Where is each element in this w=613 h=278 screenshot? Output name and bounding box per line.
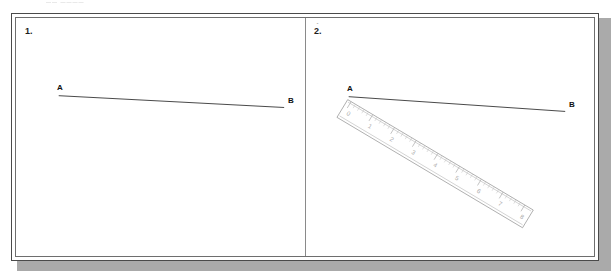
ruler-tick-major — [521, 205, 525, 211]
ruler-tick-minor — [379, 120, 381, 124]
ruler-tick-major — [434, 153, 438, 159]
panel-2-point-b-label: B — [569, 101, 575, 109]
ruler-tick-minor — [353, 104, 355, 108]
ruler-tick-minor — [488, 184, 490, 188]
ruler-tick-major — [369, 115, 373, 121]
ruler-tick-minor — [509, 197, 511, 201]
ruler-tick-minor — [444, 158, 446, 162]
panel-2-number: ´ 2. — [314, 26, 322, 36]
ruler-numeral: 7 — [497, 200, 504, 208]
ruler-tick-minor — [410, 138, 412, 142]
segment-ab-line — [349, 97, 566, 112]
ruler-numeral: 4 — [432, 161, 439, 169]
ruler-tick-minor — [405, 135, 407, 139]
panel-2-figure: 012345678 — [305, 18, 594, 256]
worksheet-sheet: 1. A B ´ 2. A B 012345678 — [11, 13, 599, 261]
panel-2-segment — [349, 97, 566, 112]
ruler-tick-minor — [453, 164, 455, 168]
panel-1: 1. A B — [16, 18, 305, 256]
ruler-numeral: 6 — [476, 187, 483, 195]
ruler-tick-minor — [466, 171, 468, 175]
panel-1-figure — [16, 18, 305, 256]
ruler-tick-major — [499, 192, 503, 198]
ruler-tick-minor — [496, 189, 498, 193]
ruler-tick-minor — [388, 125, 390, 129]
ruler-numeral: 3 — [411, 148, 418, 156]
ruler-numeral: 8 — [519, 213, 526, 221]
ruler-numeral: 5 — [454, 174, 461, 182]
ruler-tick-major — [347, 102, 351, 108]
ruler-tick-minor — [462, 169, 464, 173]
ruler-body — [337, 100, 533, 228]
ruler-tick-minor — [492, 187, 494, 191]
ruler-tick-major — [391, 127, 395, 133]
ruler-tick-major — [412, 140, 416, 146]
ruler-tick-minor — [440, 156, 442, 160]
ruler-tick-minor — [401, 133, 403, 137]
ruler-numeral: 0 — [345, 109, 352, 117]
panel-1-point-a-label: A — [57, 84, 63, 92]
panel-2: ´ 2. A B 012345678 — [305, 18, 594, 256]
segment-ab-line — [59, 96, 284, 108]
ruler-tick-minor — [431, 151, 433, 155]
panel-2-point-a-label: A — [347, 85, 353, 93]
ruler-tick-major — [478, 179, 482, 185]
ruler-tick-minor — [449, 161, 451, 165]
ruler-tick-minor — [375, 117, 377, 121]
scan-header-text: —— ———— — [46, 0, 84, 5]
ruler-tick-minor — [518, 202, 520, 206]
ruler-tick-minor — [357, 107, 359, 111]
ruler-tick-minor — [505, 195, 507, 199]
ruler-tick-major — [456, 166, 460, 172]
ruler-tick-minor — [423, 146, 425, 150]
ruler-tick-minor — [427, 148, 429, 152]
panel-1-number: 1. — [25, 26, 33, 36]
ruler-tick-minor — [397, 130, 399, 134]
ruler-tick-minor — [514, 200, 516, 204]
worksheet-page: —— ———— 1. A B ´ 2. — [0, 0, 613, 278]
panel-1-segment — [59, 96, 284, 108]
ruler-tick-minor — [366, 112, 368, 116]
ruler-tick-minor — [362, 109, 364, 113]
ruler-tick-minor — [470, 174, 472, 178]
ruler-tick-minor — [418, 143, 420, 147]
ruler-top-edge — [348, 102, 531, 211]
panel-1-point-b-label: B — [288, 97, 294, 105]
ruler: 012345678 — [337, 100, 533, 228]
ruler-tick-minor — [383, 122, 385, 126]
ruler-numeral: 2 — [389, 135, 396, 143]
panel-1-number-text: 1. — [25, 26, 33, 36]
ruler-tick-minor — [483, 182, 485, 186]
ruler-bevel-edge — [340, 116, 523, 225]
worksheet-inner-frame: 1. A B ´ 2. A B 012345678 — [15, 17, 595, 257]
ruler-tick-minor — [475, 177, 477, 181]
ruler-numeral: 1 — [367, 122, 374, 130]
